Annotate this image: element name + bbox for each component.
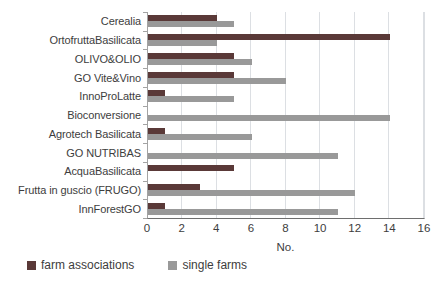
bar-group [148,106,424,125]
bar-group [148,68,424,87]
bar-group [148,49,424,68]
bar-single-farms [148,40,217,46]
bar-chart: CerealiaOrtofruttaBasilicataOLIVO&OLIOGO… [0,0,445,290]
single-farms-swatch-icon [168,261,177,270]
category-axis: CerealiaOrtofruttaBasilicataOLIVO&OLIOGO… [0,12,141,218]
x-tick-label: 10 [314,222,327,234]
category-label: Bioconversione [0,106,141,125]
bar-group [148,31,424,50]
category-label: InnForestGO [0,199,141,218]
x-tick-label: 14 [383,222,396,234]
category-label: OrtofruttaBasilicata [0,31,141,50]
bar-single-farms [148,59,252,65]
bar-group [148,143,424,162]
bar-single-farms [148,21,234,27]
plot-area [147,12,425,219]
legend-item-farm-associations: farm associations [27,258,134,272]
bar-single-farms [148,96,234,102]
bar-group [148,162,424,181]
legend-label: farm associations [41,258,134,272]
x-tick-label: 0 [144,222,150,234]
category-label: OLIVO&OLIO [0,49,141,68]
x-tick-label: 12 [348,222,361,234]
farm-associations-swatch-icon [27,261,36,270]
category-label: Agrotech Basilicata [0,124,141,143]
category-label: Frutta in guscio (FRUGO) [0,181,141,200]
legend-label: single farms [182,258,247,272]
bar-group [148,12,424,31]
category-label: Cerealia [0,12,141,31]
category-label: GO Vite&Vino [0,68,141,87]
x-axis-title: No. [147,241,424,253]
bar-single-farms [148,115,390,121]
bar-single-farms [148,78,286,84]
category-label: GO NUTRIBAS [0,143,141,162]
x-axis-ticks: 0246810121416 [147,222,424,236]
bar-group [148,124,424,143]
legend: farm associations single farms [27,258,247,272]
x-tick-label: 2 [178,222,184,234]
bar-single-farms [148,190,355,196]
legend-item-single-farms: single farms [168,258,247,272]
bar-single-farms [148,134,252,140]
bar-group [148,199,424,218]
bar-single-farms [148,209,338,215]
bar-group [148,87,424,106]
x-tick-label: 4 [213,222,219,234]
x-tick-label: 8 [282,222,288,234]
x-tick-label: 6 [248,222,254,234]
bar-farm-associations [148,165,234,171]
bar-single-farms [148,153,338,159]
category-label: InnoProLatte [0,87,141,106]
bar-group [148,181,424,200]
category-label: AcquaBasilicata [0,162,141,181]
x-tick-label: 16 [418,222,431,234]
